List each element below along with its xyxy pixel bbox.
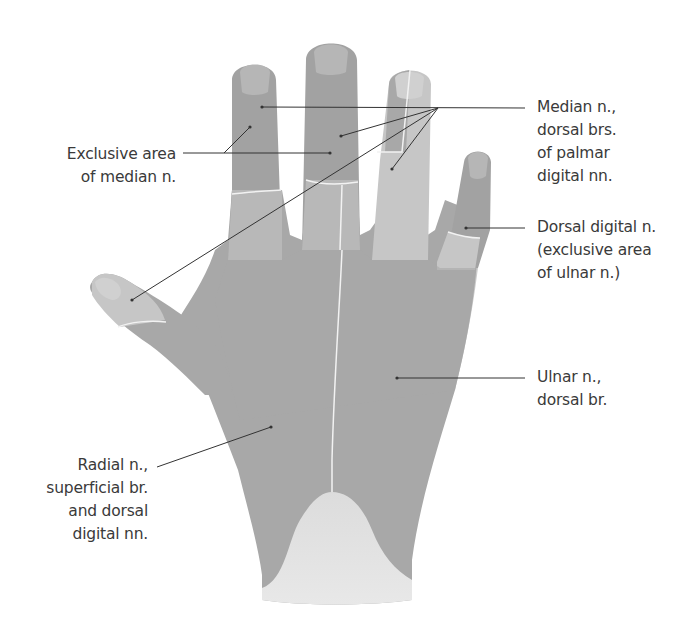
middle-fingernail <box>314 45 348 76</box>
label-line: (exclusive area <box>537 239 656 262</box>
label-line: Dorsal digital n. <box>537 216 656 239</box>
label-line: superficial br. <box>20 477 148 500</box>
label-line: of palmar <box>537 142 617 165</box>
hand-nerve-diagram: Exclusive area of median n. Median n., d… <box>0 0 699 626</box>
label-line: digital nn. <box>20 523 148 546</box>
label-exclusive-area-median: Exclusive area of median n. <box>48 143 176 189</box>
little-fingernail <box>468 152 488 179</box>
label-line: dorsal br. <box>537 389 607 412</box>
label-line: Median n., <box>537 96 617 119</box>
label-ulnar-dorsal-branch: Ulnar n., dorsal br. <box>537 366 607 412</box>
index-finger <box>228 65 282 261</box>
index-fingernail <box>240 65 270 96</box>
label-line: Exclusive area <box>48 143 176 166</box>
label-radial-superficial-branch: Radial n., superficial br. and dorsal di… <box>20 454 148 546</box>
leader-median-main <box>262 107 525 108</box>
label-dorsal-digital-ulnar: Dorsal digital n. (exclusive area of uln… <box>537 216 656 285</box>
label-line: and dorsal <box>20 500 148 523</box>
middle-finger <box>302 44 360 251</box>
label-line: Radial n., <box>20 454 148 477</box>
label-line: digital nn. <box>537 165 617 188</box>
label-line: of median n. <box>48 166 176 189</box>
label-line: dorsal brs. <box>537 119 617 142</box>
ring-finger <box>372 70 431 260</box>
label-line: Ulnar n., <box>537 366 607 389</box>
label-line: of ulnar n.) <box>537 262 656 285</box>
label-median-dorsal-branches: Median n., dorsal brs. of palmar digital… <box>537 96 617 188</box>
